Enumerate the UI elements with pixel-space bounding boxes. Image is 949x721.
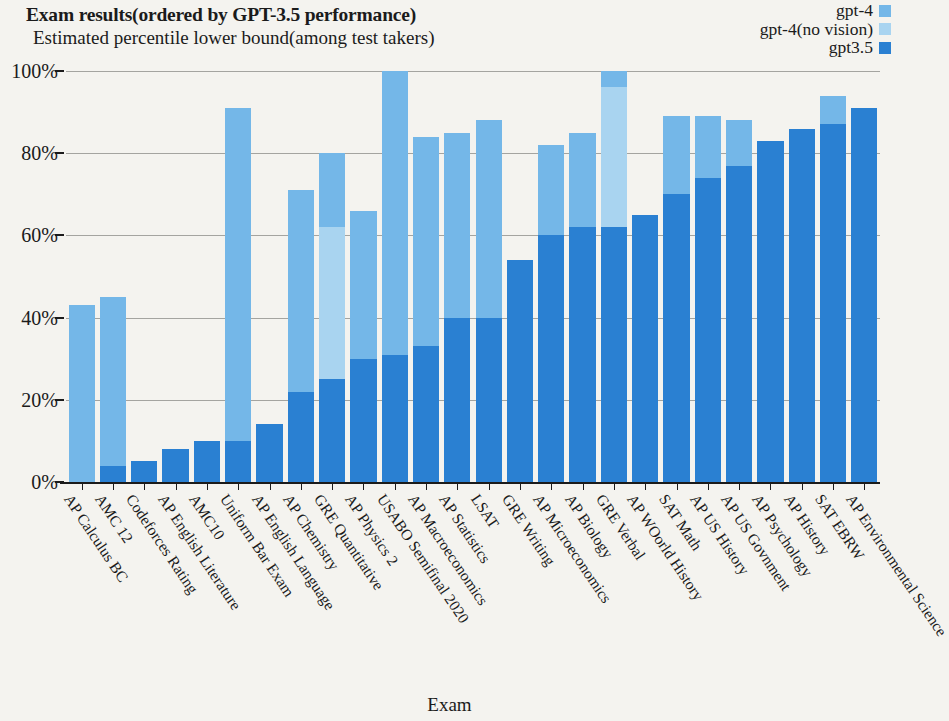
bar-column[interactable] [851,108,877,482]
bar-segment-gpt35 [100,466,126,482]
bar-segment-gpt35 [350,359,376,482]
bar-column[interactable] [695,116,721,482]
bar-segment-gpt35 [663,194,689,482]
bar-segment-gpt-4-no-vision [569,133,595,228]
plot-area [66,71,880,482]
bar-column[interactable] [820,96,846,482]
bar-segment-gpt35 [507,260,533,482]
bar-segment-gpt-4-no-vision [726,120,752,165]
y-axis-tick-label: 60% [21,224,58,247]
y-axis-tick-label: 0% [31,471,58,494]
bar-segment-gpt-4-no-vision [288,190,314,391]
bar-column[interactable] [569,133,595,482]
x-axis-tick-label: AP Environmental Science [842,491,949,640]
bar-segment-gpt35 [288,392,314,482]
bar-segment-gpt35 [319,379,345,482]
bar-segment-gpt-4-no-vision [100,297,126,466]
bar-column[interactable] [194,441,220,482]
bar-column[interactable] [288,190,314,482]
bar-segment-gpt-4-no-vision [601,87,627,227]
bar-column[interactable] [726,120,752,482]
legend-item[interactable]: gpt-4 [836,2,891,20]
bar-column[interactable] [444,133,470,482]
legend-item-label: gpt3.5 [829,39,873,57]
bar-column[interactable] [757,141,783,482]
bar-column[interactable] [538,145,564,482]
bar-segment-gpt-4-no-vision [444,133,470,318]
y-axis-labels: 0%20%40%60%80%100% [0,71,58,482]
bar-segment-gpt35 [413,346,439,482]
bar-segment-gpt35 [695,178,721,482]
bar-column[interactable] [350,211,376,482]
y-axis-tick-mark [55,234,64,236]
bar-column[interactable] [100,297,126,482]
bar-segment-gpt-4-no-vision [695,116,721,178]
bar-segment-gpt35 [789,129,815,482]
bar-segment-gpt-4-no-vision [382,71,408,355]
bar-segment-gpt35 [162,449,188,482]
legend-swatch-gpt35 [879,42,891,54]
chart-title: Exam results(ordered by GPT-3.5 performa… [26,4,416,26]
bar-segment-gpt35 [538,235,564,482]
bar-segment-gpt-4-no-vision [413,137,439,347]
y-axis-tick-mark [55,152,64,154]
bar-segment-gpt-4-no-vision [69,305,95,482]
legend-item[interactable]: gpt-4(no vision) [760,21,891,39]
bar-column[interactable] [69,305,95,482]
x-axis-title: Exam [0,694,899,716]
bar-segment-gpt35 [256,424,282,482]
y-axis-tick-label: 40% [21,306,58,329]
bar-segment-gpt-4-no-vision [225,108,251,441]
bar-segment-gpt35 [476,318,502,482]
bar-column[interactable] [789,129,815,482]
bar-column[interactable] [507,260,533,482]
y-axis-tick-mark [55,317,64,319]
bar-segment-gpt35 [757,141,783,482]
bar-column[interactable] [413,137,439,482]
bar-segment-gpt35 [726,166,752,482]
bar-column[interactable] [162,449,188,482]
bar-segment-gpt35 [632,215,658,482]
bar-segment-gpt35 [569,227,595,482]
bar-column[interactable] [476,120,502,482]
bar-segment-gpt35 [851,108,877,482]
bar-segment-gpt35 [131,461,157,482]
bar-segment-gpt-4 [820,96,846,125]
bar-segment-gpt-4 [319,153,345,227]
bar-column[interactable] [131,461,157,482]
bar-segment-gpt-4-no-vision [663,116,689,194]
gridline [66,71,880,72]
bar-segment-gpt35 [194,441,220,482]
bar-column[interactable] [601,71,627,482]
y-axis-tick-mark [55,70,64,72]
bar-segment-gpt35 [601,227,627,482]
y-axis-tick-mark [55,399,64,401]
chart-legend: gpt-4gpt-4(no vision)gpt3.5 [760,2,891,57]
y-axis-tick-label: 80% [21,142,58,165]
bar-column[interactable] [319,153,345,482]
legend-swatch-gpt-4 [879,5,891,17]
bar-segment-gpt-4-no-vision [350,211,376,359]
bar-column[interactable] [632,215,658,482]
bar-column[interactable] [382,71,408,482]
bar-segment-gpt35 [820,124,846,482]
bar-column[interactable] [256,424,282,482]
legend-item-label: gpt-4 [836,2,873,20]
bar-column[interactable] [225,108,251,482]
bar-segment-gpt-4-no-vision [538,145,564,235]
bar-segment-gpt35 [225,441,251,482]
bar-segment-gpt35 [444,318,470,482]
bar-segment-gpt-4-no-vision [476,120,502,317]
legend-swatch-gpt-4-no-vision [879,23,891,35]
y-axis-tick-label: 100% [11,60,58,83]
y-axis-tick-label: 20% [21,388,58,411]
x-axis-line [60,482,880,484]
bar-segment-gpt-4-no-vision [319,227,345,379]
chart-subtitle: Estimated percentile lower bound(among t… [33,27,435,49]
legend-item[interactable]: gpt3.5 [829,39,891,57]
bar-segment-gpt-4 [601,71,627,87]
bar-segment-gpt35 [382,355,408,482]
legend-item-label: gpt-4(no vision) [760,21,873,39]
bar-column[interactable] [663,116,689,482]
